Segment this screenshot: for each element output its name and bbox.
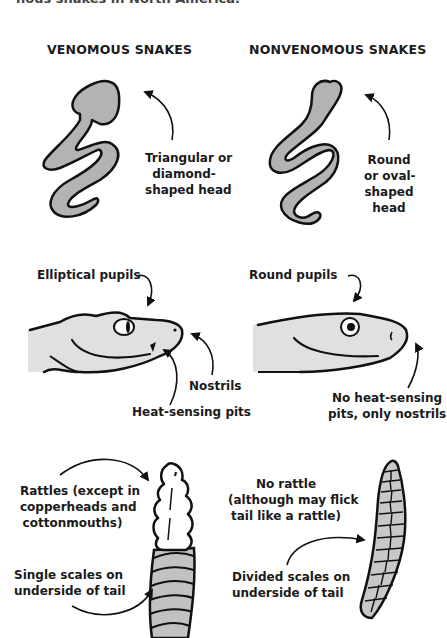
arrow-head-shape-venomous bbox=[145, 92, 173, 140]
nonvenomous-snake-body-icon bbox=[270, 81, 342, 224]
label-line: underside of tail bbox=[232, 585, 336, 601]
label-line: diamond- bbox=[145, 166, 223, 182]
label-divided-scales: Divided scales on underside of tail bbox=[232, 569, 336, 601]
rattlesnake-tail-icon bbox=[150, 463, 195, 638]
arrow-rattles bbox=[60, 459, 148, 480]
label-line: pits, only nostrils bbox=[328, 406, 446, 422]
arrow-no-pits bbox=[408, 344, 418, 388]
label-single-scales: Single scales on underside of tail bbox=[14, 567, 114, 599]
arrow-nostrils bbox=[192, 334, 213, 375]
label-line: No heat-sensing bbox=[328, 390, 446, 406]
label-no-heat-pits: No heat-sensing pits, only nostrils bbox=[328, 390, 446, 422]
label-line: Rattles (except in bbox=[20, 483, 125, 499]
label-heat-sensing-pits: Heat-sensing pits bbox=[132, 404, 251, 420]
label-nostrils: Nostrils bbox=[189, 378, 241, 394]
label-rattles: Rattles (except in copperheads and cotto… bbox=[20, 483, 125, 531]
venomous-head-profile-icon bbox=[28, 313, 182, 373]
label-line: underside of tail bbox=[14, 583, 114, 599]
label-line: tail like a rattle) bbox=[228, 508, 344, 524]
label-line: No rattle bbox=[228, 476, 344, 492]
label-venomous-head-shape: Triangular or diamond- shaped head bbox=[145, 150, 223, 198]
diagram-artwork bbox=[0, 0, 447, 638]
label-line: Single scales on bbox=[14, 567, 114, 583]
arrow-heat-pits bbox=[164, 350, 177, 405]
label-line: copperheads and bbox=[20, 499, 125, 515]
label-line: or oval- bbox=[364, 168, 414, 184]
label-line: Round bbox=[364, 152, 414, 168]
label-line: Triangular or bbox=[145, 150, 223, 166]
label-line: head bbox=[364, 200, 414, 216]
label-line: (although may flick bbox=[228, 492, 344, 508]
label-no-rattle: No rattle (although may flick tail like … bbox=[228, 476, 344, 524]
label-line: shaped head bbox=[145, 182, 223, 198]
label-line: Divided scales on bbox=[232, 569, 336, 585]
label-round-pupils: Round pupils bbox=[249, 267, 337, 283]
arrow-head-shape-nonvenomous bbox=[366, 95, 390, 140]
arrow-pupils-nonvenomous bbox=[348, 275, 361, 301]
nostril-icon bbox=[173, 328, 176, 331]
nonvenomous-head-profile-icon bbox=[253, 314, 407, 372]
label-nonvenomous-head-shape: Round or oval- shaped head bbox=[364, 152, 414, 216]
nonvenomous-tail-icon bbox=[361, 461, 406, 618]
label-elliptical-pupils: Elliptical pupils bbox=[37, 267, 141, 283]
label-line: cottonmouths) bbox=[20, 515, 125, 531]
arrow-divided-scales bbox=[287, 538, 364, 565]
label-line: shaped bbox=[364, 184, 414, 200]
venomous-snake-body-icon bbox=[43, 81, 119, 217]
